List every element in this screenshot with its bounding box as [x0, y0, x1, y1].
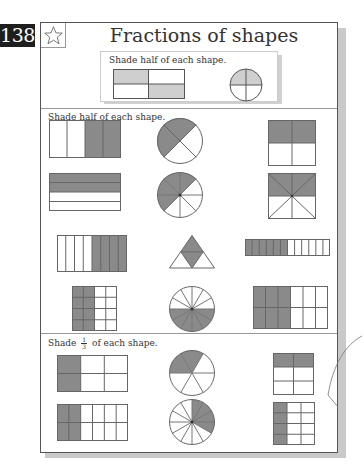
- fraction-one-third: 1 3: [81, 337, 87, 350]
- instruction-suffix: of each shape.: [92, 338, 158, 348]
- star-box: [41, 23, 66, 48]
- shape-square-2x2: [268, 120, 316, 166]
- shape-circle-12-slices-half: [169, 286, 215, 332]
- shape-grid-3x2: [57, 355, 128, 392]
- section-divider-1: [41, 108, 337, 109]
- example-instruction: Shade half of each shape.: [109, 55, 226, 65]
- shape-triangle-4-parts: [169, 235, 215, 269]
- shape-rect-12-columns: [245, 239, 330, 256]
- shape-circle-4-diagonal: [157, 118, 203, 164]
- shape-rect-4-rows: [49, 173, 121, 211]
- worksheet-page: Fractions of shapes Shade half of each s…: [40, 22, 338, 453]
- example-rectangle: [113, 69, 185, 99]
- page-title: Fractions of shapes: [71, 24, 337, 46]
- page-curl-decoration: [300, 330, 364, 410]
- example-box: Shade half of each shape.: [100, 51, 278, 102]
- fraction-denominator: 3: [81, 344, 87, 350]
- example-circle: [229, 68, 263, 102]
- section-third-instruction: Shade 1 3 of each shape.: [48, 337, 158, 350]
- page-number-badge: 138: [0, 24, 35, 47]
- shape-rect-4-columns: [49, 120, 121, 158]
- shape-circle-8-slices: [157, 172, 203, 218]
- instruction-prefix: Shade: [48, 338, 76, 348]
- shape-grid-6x2-thirds: [57, 404, 128, 441]
- shape-rect-8-columns: [57, 235, 127, 272]
- shape-circle-6-slices: [169, 350, 215, 396]
- star-icon: [43, 25, 64, 46]
- shape-square-8-triangles: [268, 173, 316, 219]
- section-divider-2: [41, 333, 337, 334]
- shape-circle-12-slices-third: [169, 399, 215, 445]
- shape-grid-4x4: [72, 286, 117, 331]
- shape-grid-6x2: [253, 286, 328, 329]
